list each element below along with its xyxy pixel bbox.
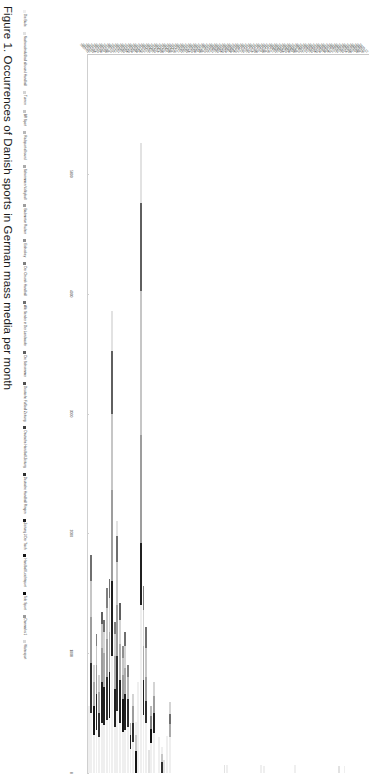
bar-row[interactable]: 2013-08 bbox=[137, 54, 139, 773]
bar-row[interactable]: 2020-09 bbox=[359, 54, 361, 773]
bar-row[interactable]: 2012-05 bbox=[98, 54, 100, 773]
bar-segment[interactable] bbox=[119, 603, 121, 620]
bar-row[interactable]: 2012-08 bbox=[106, 54, 108, 773]
bar-segment[interactable] bbox=[116, 711, 118, 773]
bar-segment[interactable] bbox=[130, 723, 132, 735]
bar-row[interactable]: 2012-11 bbox=[114, 54, 116, 773]
bar-segment[interactable] bbox=[103, 632, 105, 654]
bar-row[interactable]: 2019-10 bbox=[331, 54, 333, 773]
bar-row[interactable]: 2019-06 bbox=[320, 54, 322, 773]
bar-row[interactable]: 2013-06 bbox=[132, 54, 134, 773]
bar-segment[interactable] bbox=[132, 706, 134, 723]
bar-segment[interactable] bbox=[114, 622, 116, 634]
bar-segment[interactable] bbox=[140, 203, 142, 292]
bar-segment[interactable] bbox=[124, 694, 126, 730]
bar-segment[interactable] bbox=[101, 723, 103, 773]
bar-segment[interactable] bbox=[116, 656, 118, 711]
legend-item[interactable]: Der Chronik Handball bbox=[22, 262, 27, 296]
bar-row[interactable]: 2018-07 bbox=[291, 54, 293, 773]
bar-segment[interactable] bbox=[132, 742, 134, 773]
bar-segment[interactable] bbox=[111, 656, 113, 773]
bar-row[interactable]: 2017-04 bbox=[252, 54, 254, 773]
bar-row[interactable]: 2019-02 bbox=[310, 54, 312, 773]
bar-row[interactable]: 2017-10 bbox=[268, 54, 270, 773]
bar-row[interactable]: 2016-07 bbox=[229, 54, 231, 773]
bar-segment[interactable] bbox=[150, 716, 152, 729]
bar-segment[interactable] bbox=[344, 766, 346, 773]
bar-segment[interactable] bbox=[106, 677, 108, 720]
bar-segment[interactable] bbox=[163, 760, 165, 773]
bar-row[interactable]: 2015-12 bbox=[210, 54, 212, 773]
bar-segment[interactable] bbox=[114, 656, 116, 690]
bar-segment[interactable] bbox=[294, 765, 296, 773]
bar-segment[interactable] bbox=[140, 143, 142, 203]
bar-row[interactable]: 2016-12 bbox=[242, 54, 244, 773]
bar-segment[interactable] bbox=[111, 351, 113, 413]
bar-segment[interactable] bbox=[140, 543, 142, 605]
bar-row[interactable]: 2015-05 bbox=[192, 54, 194, 773]
bar-row[interactable]: 2019-07 bbox=[323, 54, 325, 773]
bar-segment[interactable] bbox=[106, 639, 108, 677]
bar-row[interactable]: 2020-03 bbox=[344, 54, 346, 773]
bar-segment[interactable] bbox=[150, 729, 152, 743]
bar-row[interactable]: 2014-12 bbox=[179, 54, 181, 773]
bar-row[interactable]: 2015-08 bbox=[200, 54, 202, 773]
legend-item[interactable]: Eishockey bbox=[22, 239, 27, 257]
bar-row[interactable]: 2012-04 bbox=[96, 54, 98, 773]
bar-segment[interactable] bbox=[122, 699, 124, 733]
bar-row[interactable]: 2014-06 bbox=[163, 54, 165, 773]
bar-row[interactable]: 2013-02 bbox=[122, 54, 124, 773]
bar-row[interactable]: 2012-09 bbox=[109, 54, 111, 773]
bar-row[interactable]: 2019-08 bbox=[325, 54, 327, 773]
bar-segment[interactable] bbox=[122, 646, 124, 658]
bar-segment[interactable] bbox=[260, 765, 262, 773]
legend-item[interactable]: Handball Leichtsport bbox=[22, 554, 27, 586]
bar-segment[interactable] bbox=[96, 730, 98, 773]
bar-row[interactable]: 2016-05 bbox=[224, 54, 226, 773]
bar-segment[interactable] bbox=[111, 490, 113, 581]
bar-segment[interactable] bbox=[116, 521, 118, 535]
bar-segment[interactable] bbox=[161, 762, 163, 773]
bar-segment[interactable] bbox=[90, 555, 92, 581]
bar-segment[interactable] bbox=[143, 646, 145, 680]
bar-row[interactable]: 2019-03 bbox=[312, 54, 314, 773]
bar-row[interactable]: 2014-02 bbox=[153, 54, 155, 773]
bar-row[interactable]: 2014-08 bbox=[169, 54, 171, 773]
legend-item[interactable]: Tele Sport bbox=[22, 592, 27, 610]
bar-segment[interactable] bbox=[140, 605, 142, 773]
bar-row[interactable]: 2015-02 bbox=[184, 54, 186, 773]
bar-segment[interactable] bbox=[114, 689, 116, 727]
bar-segment[interactable] bbox=[90, 713, 92, 773]
bar-segment[interactable] bbox=[116, 536, 118, 562]
bar-segment[interactable] bbox=[169, 714, 171, 724]
bar-row[interactable]: 2018-09 bbox=[297, 54, 299, 773]
bar-row[interactable]: 2012-12 bbox=[116, 54, 118, 773]
bar-segment[interactable] bbox=[124, 646, 126, 668]
bar-segment[interactable] bbox=[132, 694, 134, 706]
bar-segment[interactable] bbox=[145, 723, 147, 773]
bar-row[interactable]: 2013-05 bbox=[130, 54, 132, 773]
bar-segment[interactable] bbox=[143, 715, 145, 773]
legend-item[interactable]: Schwimmen Volleyball bbox=[22, 165, 27, 200]
bar-row[interactable]: 2017-02 bbox=[247, 54, 249, 773]
bar-row[interactable]: 2016-03 bbox=[218, 54, 220, 773]
legend-item[interactable]: Danmarks 1 bbox=[22, 615, 27, 636]
bar-row[interactable]: 2016-04 bbox=[221, 54, 223, 773]
bar-segment[interactable] bbox=[119, 620, 121, 644]
bar-segment[interactable] bbox=[98, 737, 100, 773]
bar-segment[interactable] bbox=[96, 694, 98, 730]
legend-item[interactable]: BR Sport bbox=[22, 110, 27, 127]
bar-segment[interactable] bbox=[224, 765, 226, 773]
bar-row[interactable]: 2018-04 bbox=[284, 54, 286, 773]
bar-row[interactable]: 2014-10 bbox=[174, 54, 176, 773]
bar-row[interactable]: 2015-09 bbox=[203, 54, 205, 773]
bar-row[interactable]: 2013-04 bbox=[127, 54, 129, 773]
bar-segment[interactable] bbox=[114, 634, 116, 656]
legend-item[interactable]: Badminton Rudern bbox=[22, 204, 27, 234]
bar-segment[interactable] bbox=[103, 653, 105, 687]
bar-row[interactable]: 2017-05 bbox=[255, 54, 257, 773]
bar-segment[interactable] bbox=[158, 737, 160, 773]
bar-row[interactable]: 2015-06 bbox=[195, 54, 197, 773]
bar-row[interactable]: 2017-11 bbox=[271, 54, 273, 773]
legend-item[interactable]: Watersport bbox=[22, 640, 27, 659]
